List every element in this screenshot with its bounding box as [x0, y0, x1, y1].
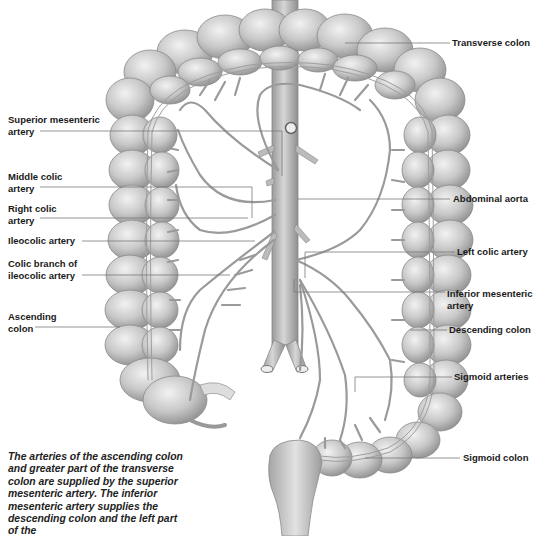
label-abdominal-aorta: Abdominal aorta: [453, 193, 528, 205]
label-inferior-mesenteric-artery: Inferior mesenteric artery: [447, 288, 533, 312]
label-line: colon: [8, 323, 57, 335]
label-middle-colic-artery: Middle colic artery: [8, 171, 62, 195]
label-line: Transverse colon: [452, 37, 530, 49]
label-ascending-colon: Ascending colon: [8, 311, 57, 335]
label-line: Sigmoid colon: [463, 452, 528, 464]
label-line: artery: [8, 126, 100, 138]
label-left-colic-artery: Left colic artery: [457, 246, 528, 258]
label-line: Abdominal aorta: [453, 193, 528, 205]
label-line: Ascending: [8, 311, 57, 323]
label-right-colic-artery: Right colic artery: [8, 203, 57, 227]
label-colic-branch-ileocolic-artery: Colic branch of ileocolic artery: [8, 258, 77, 282]
label-line: artery: [8, 183, 62, 195]
label-line: Colic branch of: [8, 258, 77, 270]
leader-lines: [35, 43, 460, 458]
label-line: Middle colic: [8, 171, 62, 183]
caption-text: The arteries of the ascending colon and …: [8, 451, 183, 536]
label-ileocolic-artery: Ileocolic artery: [8, 235, 75, 247]
label-line: Left colic artery: [457, 246, 528, 258]
label-line: ileocolic artery: [8, 270, 77, 282]
label-superior-mesenteric-artery: Superior mesenteric artery: [8, 114, 100, 138]
label-line: Superior mesenteric: [8, 114, 100, 126]
label-descending-colon: Descending colon: [449, 324, 531, 336]
label-line: Ileocolic artery: [8, 235, 75, 247]
label-line: Sigmoid arteries: [454, 371, 528, 383]
label-sigmoid-arteries: Sigmoid arteries: [454, 371, 528, 383]
label-line: artery: [447, 300, 533, 312]
label-sigmoid-colon: Sigmoid colon: [463, 452, 528, 464]
sigmoid-rectum-shape: [269, 440, 322, 536]
label-transverse-colon: Transverse colon: [452, 37, 530, 49]
label-line: artery: [8, 215, 57, 227]
label-line: Right colic: [8, 203, 57, 215]
label-line: Inferior mesenteric: [447, 288, 533, 300]
label-line: Descending colon: [449, 324, 531, 336]
